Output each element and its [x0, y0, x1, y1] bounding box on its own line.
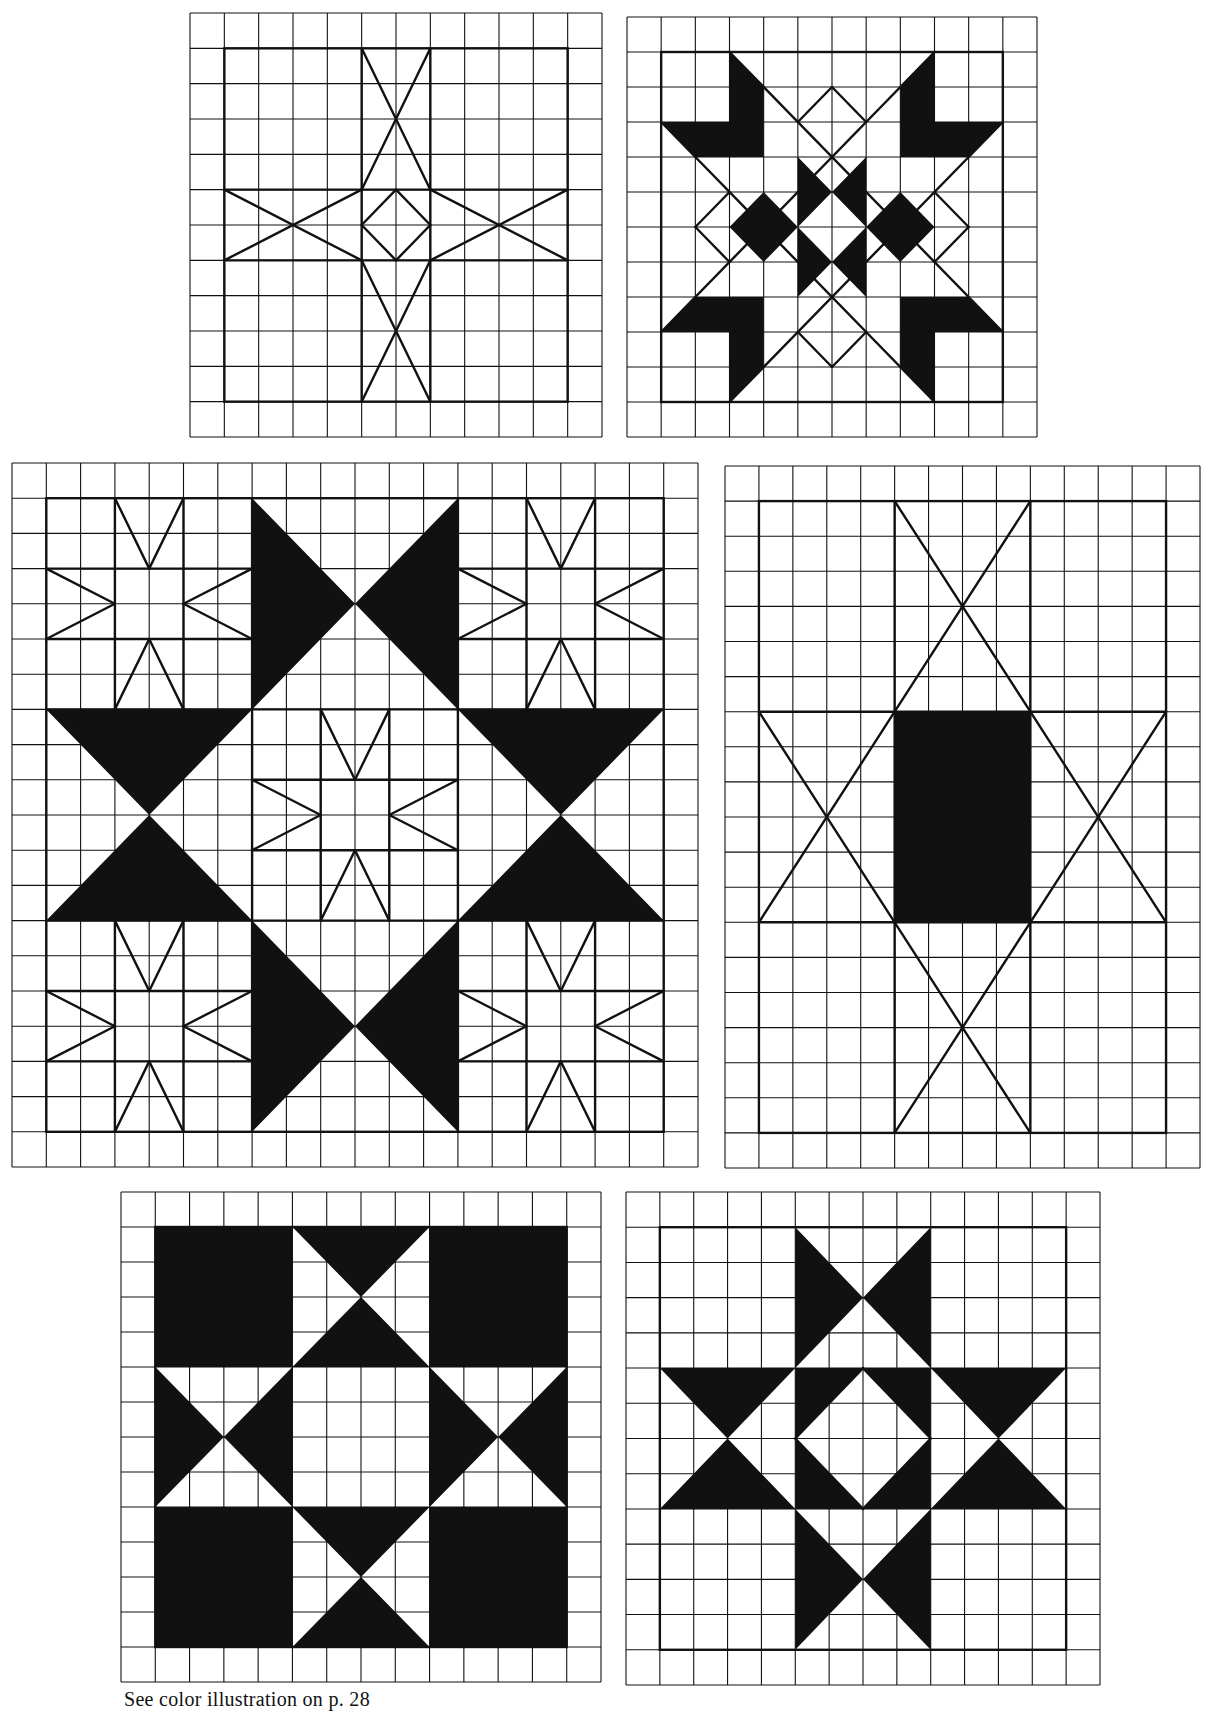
- filled-patch: [900, 52, 1003, 157]
- grid-lines: [626, 1192, 1100, 1685]
- quilt-block-3: [12, 463, 698, 1167]
- quilt-block-4: [725, 466, 1200, 1168]
- grid-lines: [725, 466, 1200, 1168]
- grid-lines: [190, 13, 602, 437]
- grid-lines: [627, 17, 1037, 437]
- quilt-block-2: [627, 17, 1037, 437]
- quilt-block-6: [626, 1192, 1100, 1685]
- graph-paper-grid: [626, 1192, 1100, 1685]
- quilt-block-1: [190, 13, 602, 437]
- graph-paper-grid: [12, 463, 698, 1167]
- graph-paper-grid: [627, 17, 1037, 437]
- filled-patch: [661, 297, 764, 402]
- filled-patch: [661, 52, 764, 157]
- figure-caption: See color illustration on p. 28: [124, 1688, 370, 1711]
- filled-patch: [900, 297, 1003, 402]
- graph-paper-grid: [190, 13, 602, 437]
- graph-paper-grid: [121, 1192, 601, 1682]
- quilt-block-5: [121, 1192, 601, 1682]
- graph-paper-grid: [725, 466, 1200, 1168]
